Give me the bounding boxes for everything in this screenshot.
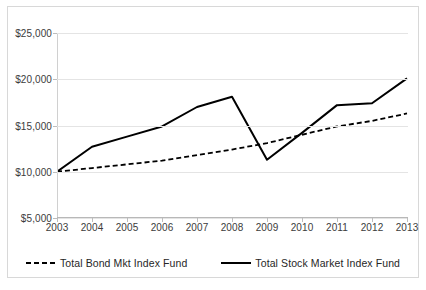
x-axis-tick-label: 2007: [186, 222, 209, 233]
x-axis-tick-label: 2003: [46, 222, 69, 233]
x-axis-tick-label: 2013: [396, 222, 419, 233]
dashed-line-swatch: [26, 259, 56, 267]
plot-area: [57, 33, 408, 218]
grid-line: [57, 172, 408, 173]
y-tick-mark: [53, 79, 57, 80]
y-axis-tick-label: $15,000: [15, 120, 52, 131]
y-axis-tick-label: $25,000: [15, 28, 52, 39]
y-tick-mark: [53, 33, 57, 34]
legend-label: Total Bond Mkt Index Fund: [60, 257, 187, 269]
chart-legend: Total Bond Mkt Index FundTotal Stock Mar…: [7, 252, 419, 274]
legend-item[interactable]: Total Bond Mkt Index Fund: [26, 257, 187, 269]
y-tick-mark: [53, 172, 57, 173]
x-axis-tick-label: 2010: [291, 222, 314, 233]
y-axis-tick-label: $10,000: [15, 166, 52, 177]
y-tick-mark: [53, 126, 57, 127]
grid-line: [57, 33, 408, 34]
x-axis-tick-labels: 2003200420052006200720082009201020112012…: [57, 222, 408, 238]
chart-figure: $5,000$10,000$15,000$20,000$25,000 20032…: [0, 0, 426, 290]
legend-item[interactable]: Total Stock Market Index Fund: [221, 257, 400, 269]
x-axis-tick-label: 2006: [151, 222, 174, 233]
y-axis-tick-labels: $5,000$10,000$15,000$20,000$25,000: [0, 33, 52, 218]
x-axis-tick-label: 2012: [361, 222, 384, 233]
x-axis-tick-label: 2009: [256, 222, 279, 233]
x-axis-tick-label: 2005: [116, 222, 139, 233]
solid-line-swatch: [221, 259, 251, 267]
legend-label: Total Stock Market Index Fund: [255, 257, 400, 269]
x-axis-tick-label: 2011: [326, 222, 348, 233]
y-axis-tick-label: $20,000: [15, 74, 52, 85]
grid-line: [57, 126, 408, 127]
grid-line: [57, 79, 408, 80]
x-axis-tick-label: 2008: [221, 222, 244, 233]
x-axis-tick-label: 2004: [81, 222, 104, 233]
